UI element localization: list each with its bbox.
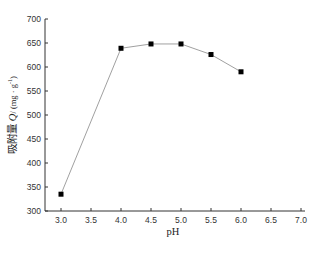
data-point-marker (239, 69, 244, 74)
y-axis-title: 吸附量 Q/ (mg · g-1) (6, 76, 18, 154)
data-point-marker (59, 192, 64, 197)
x-tick-label: 3.0 (55, 215, 67, 225)
x-axis-title: pH (167, 226, 180, 237)
x-tick-label: 4.0 (115, 215, 127, 225)
x-tick-label: 6.0 (235, 215, 247, 225)
data-point-marker (149, 41, 154, 46)
x-tick-label: 6.5 (265, 215, 277, 225)
x-tick-label: 7.0 (295, 215, 307, 225)
y-tick-label: 300 (27, 206, 41, 216)
plot-area (59, 41, 244, 196)
x-tick-label: 4.5 (145, 215, 157, 225)
x-tick-label: 5.0 (175, 215, 187, 225)
y-tick-label: 350 (27, 182, 41, 192)
x-tick-label: 5.5 (205, 215, 217, 225)
y-tick-label: 650 (27, 38, 41, 48)
y-tick-label: 550 (27, 86, 41, 96)
y-tick-label: 600 (27, 62, 41, 72)
series-line (61, 44, 241, 194)
y-tick-label: 700 (27, 14, 41, 24)
data-point-marker (119, 46, 124, 51)
chart: 3.03.54.04.55.05.56.06.57.0 300350400450… (0, 0, 322, 253)
y-axis: 300350400450500550600650700 (27, 14, 48, 216)
svg-text:吸附量 Q/ (mg · g-1): 吸附量 Q/ (mg · g-1) (6, 76, 18, 154)
y-tick-label: 450 (27, 134, 41, 144)
data-point-marker (209, 52, 214, 57)
data-point-marker (179, 41, 184, 46)
y-tick-label: 400 (27, 158, 41, 168)
y-tick-label: 500 (27, 110, 41, 120)
x-axis: 3.03.54.04.55.05.56.06.57.0 (45, 208, 307, 225)
x-tick-label: 3.5 (85, 215, 97, 225)
